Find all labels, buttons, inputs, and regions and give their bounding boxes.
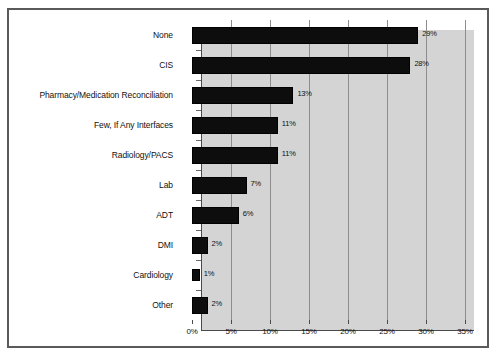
x-tick — [348, 320, 349, 324]
value-label: 6% — [243, 209, 253, 218]
x-tick-label: 30% — [418, 327, 433, 336]
y-tick — [196, 80, 201, 81]
category-label: Few, If Any Interfaces — [94, 120, 173, 130]
x-tick-label: 10% — [262, 327, 277, 336]
category-label: Pharmacy/Medication Reconciliation — [39, 90, 173, 100]
x-tick — [426, 320, 427, 324]
y-tick — [196, 260, 201, 261]
value-label: 2% — [212, 239, 222, 248]
category-label: DMI — [158, 240, 173, 250]
x-tick — [387, 320, 388, 324]
x-tick-label: 35% — [457, 327, 472, 336]
bar — [192, 27, 418, 44]
x-tick — [270, 320, 271, 324]
x-tick-label: 20% — [340, 327, 355, 336]
x-tick — [192, 320, 193, 324]
chart-frame: 0%5%10%15%20%25%30%35% NoneCISPharmacy/M… — [7, 8, 489, 348]
x-tick-label: 0% — [186, 327, 197, 336]
category-label: Radiology/PACS — [112, 150, 173, 160]
bar — [192, 57, 410, 74]
value-label: 1% — [204, 269, 214, 278]
x-tick — [231, 320, 232, 324]
value-label: 29% — [422, 29, 436, 38]
y-tick — [196, 50, 201, 51]
category-label: ADT — [156, 210, 173, 220]
bar — [192, 117, 278, 134]
category-label: CIS — [159, 60, 173, 70]
bar — [192, 87, 293, 104]
y-tick — [196, 200, 201, 201]
y-tick — [196, 140, 201, 141]
value-label: 11% — [282, 149, 296, 158]
y-tick — [196, 170, 201, 171]
y-tick — [196, 290, 201, 291]
bar — [192, 237, 208, 254]
bar — [192, 269, 200, 281]
x-tick-label: 25% — [379, 327, 394, 336]
gridline — [465, 20, 466, 320]
bar — [192, 207, 239, 224]
bar — [192, 147, 278, 164]
x-tick-label: 5% — [225, 327, 236, 336]
category-label: Lab — [159, 180, 173, 190]
value-label: 11% — [282, 119, 296, 128]
category-label: Cardiology — [133, 270, 173, 280]
x-tick — [465, 320, 466, 324]
x-tick — [309, 320, 310, 324]
value-label: 13% — [297, 89, 311, 98]
bar — [192, 297, 208, 314]
value-label: 7% — [251, 179, 261, 188]
x-tick-label: 15% — [301, 327, 316, 336]
value-label: 2% — [212, 299, 222, 308]
chart-figure: 0%5%10%15%20%25%30%35% NoneCISPharmacy/M… — [0, 0, 501, 363]
bar — [192, 177, 247, 194]
y-tick — [196, 230, 201, 231]
value-label: 28% — [414, 59, 428, 68]
category-label: Other — [152, 300, 173, 310]
y-tick — [196, 110, 201, 111]
category-label: None — [153, 30, 173, 40]
